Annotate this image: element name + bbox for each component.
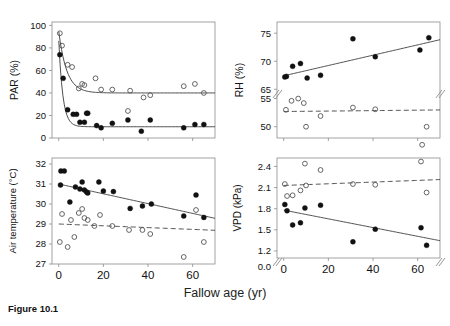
svg-text:0: 0 [41, 132, 46, 143]
svg-text:65: 65 [260, 84, 271, 95]
panel-rh: 5055657075RH (%) [225, 8, 450, 158]
vpd-plot: 1.21.51.82.12.40.00204060VPD (kPa) [225, 152, 450, 287]
panel-airtemp: 2728293031320204060Air temperature (°C) [0, 152, 225, 287]
x-axis-label: Fallow age (yr) [0, 286, 450, 300]
svg-text:1.8: 1.8 [258, 203, 271, 214]
svg-text:30: 30 [35, 198, 46, 209]
par-plot: 020406080100PAR (%) [0, 8, 225, 158]
airtemp-plot: 2728293031320204060Air temperature (°C) [0, 152, 225, 287]
svg-text:60: 60 [35, 65, 46, 76]
svg-text:2.4: 2.4 [258, 161, 271, 172]
y-axis-title: PAR (%) [8, 60, 20, 100]
svg-text:0.0: 0.0 [258, 261, 271, 272]
svg-text:40: 40 [367, 263, 380, 275]
svg-text:1.5: 1.5 [258, 224, 271, 235]
rh-plot: 5055657075RH (%) [225, 8, 450, 158]
figure-10-1: 020406080100PAR (%) 5055657075RH (%) 272… [0, 0, 450, 326]
y-axis-title: Air temperature (°C) [7, 168, 18, 253]
svg-text:32: 32 [35, 158, 46, 169]
svg-text:80: 80 [35, 42, 46, 53]
svg-text:70: 70 [260, 56, 271, 67]
y-axis-title: VPD (kPa) [232, 184, 243, 231]
svg-text:100: 100 [30, 20, 46, 31]
svg-text:60: 60 [186, 269, 199, 281]
svg-text:31: 31 [35, 178, 46, 189]
svg-text:20: 20 [322, 263, 335, 275]
panel-vpd: 1.21.51.82.12.40.00204060VPD (kPa) [225, 152, 450, 287]
svg-text:60: 60 [411, 263, 424, 275]
svg-text:20: 20 [97, 269, 110, 281]
svg-text:75: 75 [260, 28, 271, 39]
svg-text:40: 40 [35, 87, 46, 98]
svg-text:2.1: 2.1 [258, 182, 271, 193]
svg-text:28: 28 [35, 238, 46, 249]
svg-text:29: 29 [35, 218, 46, 229]
svg-text:1.2: 1.2 [258, 245, 271, 256]
panel-par: 020406080100PAR (%) [0, 8, 225, 158]
svg-text:0: 0 [280, 263, 286, 275]
figure-caption: Figure 10.1 [8, 303, 58, 314]
svg-text:50: 50 [260, 121, 271, 132]
svg-text:27: 27 [35, 258, 46, 269]
svg-text:40: 40 [142, 269, 155, 281]
y-axis-title: RH (%) [233, 63, 245, 97]
svg-text:20: 20 [35, 110, 46, 121]
svg-text:0: 0 [55, 269, 61, 281]
